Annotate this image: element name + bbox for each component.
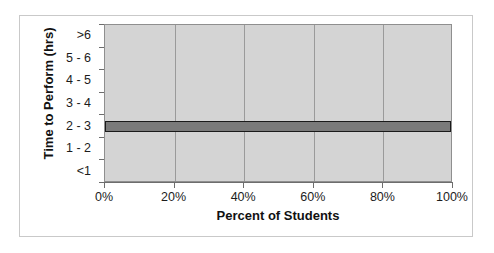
bar-row bbox=[105, 115, 451, 138]
x-axis-tick bbox=[243, 183, 244, 188]
x-axis-tick bbox=[174, 183, 175, 188]
bar-row bbox=[105, 48, 451, 71]
bar-row bbox=[105, 25, 451, 48]
x-axis-title: Percent of Students bbox=[104, 208, 452, 223]
bar-row bbox=[105, 70, 451, 93]
chart-figure: Time to Perform (hrs) >65 - 64 - 53 - 42… bbox=[0, 0, 494, 253]
y-axis-tick-label: <1 bbox=[30, 159, 98, 182]
x-axis-tick-label: 100% bbox=[422, 190, 482, 204]
y-axis-tick-label: 1 - 2 bbox=[30, 137, 98, 160]
y-axis-tick-label: 4 - 5 bbox=[30, 69, 98, 92]
x-axis-tick bbox=[452, 183, 453, 188]
y-axis-tick-label: >6 bbox=[30, 24, 98, 47]
bars-layer bbox=[105, 25, 451, 181]
x-axis-tick-label: 0% bbox=[74, 190, 134, 204]
x-axis-tick bbox=[104, 183, 105, 188]
y-axis-tick-label: 3 - 4 bbox=[30, 92, 98, 115]
bar-row bbox=[105, 93, 451, 116]
x-axis-tick-label: 20% bbox=[144, 190, 204, 204]
y-axis-tick-label: 5 - 6 bbox=[30, 47, 98, 70]
x-axis-tick bbox=[382, 183, 383, 188]
y-axis-tick-labels: >65 - 64 - 53 - 42 - 31 - 2<1 bbox=[30, 24, 98, 182]
plot-area bbox=[104, 24, 452, 182]
bar[interactable] bbox=[105, 121, 451, 132]
bar-row bbox=[105, 160, 451, 183]
x-axis-tick-label: 40% bbox=[213, 190, 273, 204]
x-axis-tick bbox=[313, 183, 314, 188]
x-axis-tick-label: 60% bbox=[283, 190, 343, 204]
bar-row bbox=[105, 138, 451, 161]
x-axis-tick-label: 80% bbox=[352, 190, 412, 204]
x-axis-line bbox=[104, 182, 453, 183]
y-axis-tick-label: 2 - 3 bbox=[30, 114, 98, 137]
